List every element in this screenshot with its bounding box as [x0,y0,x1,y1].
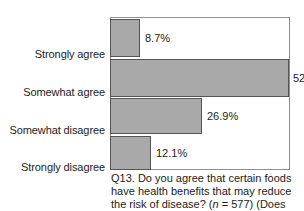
bar-somewhat-agree [110,59,289,97]
chart-plot-region: Strongly agree Somewhat agree Somewhat d… [0,0,304,172]
bar-chart-figure: Strongly agree Somewhat agree Somewhat d… [0,0,304,211]
caption-line-3-before: the risk of disease? ( [111,198,213,210]
category-axis-labels: Strongly agree Somewhat agree Somewhat d… [0,17,105,170]
caption-line-3: the risk of disease? (n = 577) (Does [111,198,304,211]
category-label-somewhat-disagree: Somewhat disagree [0,125,105,136]
value-label-somewhat-agree: 52.3% [293,73,304,84]
value-label-somewhat-disagree: 26.9% [207,111,238,122]
bar-somewhat-disagree [110,98,202,134]
bars-layer: 8.7% 52.3% 26.9% 12.1% [110,17,290,170]
category-label-strongly-disagree: Strongly disagree [0,162,105,173]
value-label-strongly-disagree: 12.1% [156,148,187,159]
category-label-somewhat-agree: Somewhat agree [0,87,105,98]
caption-line-1: Q13. Do you agree that certain foods [111,172,304,185]
bar-strongly-disagree [110,136,151,170]
figure-caption: Q13. Do you agree that certain foods hav… [111,172,304,211]
bar-strongly-agree [110,19,140,57]
caption-line-2: have health benefits that may reduce [111,185,304,198]
category-label-strongly-agree: Strongly agree [0,49,105,60]
value-label-strongly-agree: 8.7% [145,33,170,44]
caption-line-3-after: = 577) (Does [219,198,286,210]
